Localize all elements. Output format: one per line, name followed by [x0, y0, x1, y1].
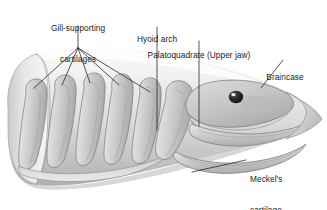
label-palatoquadrate: Palatoquadrate (Upper jaw) [139, 30, 259, 81]
label-meckels-line2: cartilage [250, 205, 322, 210]
label-braincase: Braincase [253, 52, 317, 103]
eye [229, 91, 243, 103]
label-meckels-cartilage: Meckel's cartilage (lower jaw) [250, 154, 322, 210]
label-braincase-line1: Braincase [253, 72, 317, 82]
figure-canvas: Gill-supporting cartilages Hyoid arch Pa… [0, 0, 327, 210]
label-meckels-line1: Meckel's [250, 174, 322, 184]
label-palatoquadrate-line1: Palatoquadrate (Upper jaw) [139, 50, 259, 60]
